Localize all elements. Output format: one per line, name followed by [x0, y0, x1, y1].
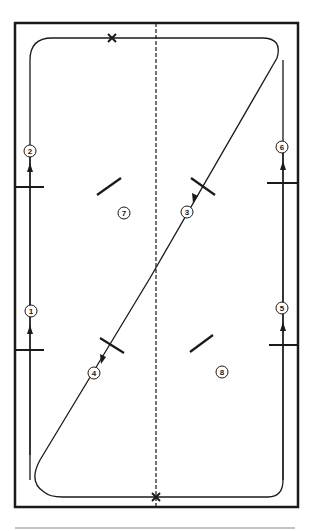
svg-text:7: 7 [122, 209, 127, 218]
svg-text:5: 5 [280, 304, 285, 313]
arrow-diagonal-3 [192, 193, 198, 203]
arrow-up-left-1 [27, 325, 33, 334]
svg-text:6: 6 [280, 143, 285, 152]
svg-text:4: 4 [92, 369, 97, 378]
arena-diagram: 2 1 6 5 7 3 4 8 [0, 0, 316, 531]
arrow-up-left-2 [27, 163, 33, 172]
marker-1: 1 [25, 305, 37, 317]
pole-field-7 [97, 178, 121, 195]
arrow-up-right-5 [280, 322, 286, 331]
marker-3: 3 [181, 206, 193, 218]
svg-text:1: 1 [29, 307, 34, 316]
arrow-up-right-6 [280, 161, 286, 170]
marker-6: 6 [276, 141, 288, 153]
marker-2: 2 [24, 145, 36, 157]
arrow-diagonal-4 [100, 354, 106, 364]
marker-7: 7 [118, 207, 130, 219]
marker-8: 8 [216, 366, 228, 378]
marker-4: 4 [88, 367, 100, 379]
svg-text:3: 3 [185, 208, 190, 217]
pole-field-8 [190, 335, 213, 352]
svg-text:8: 8 [220, 368, 225, 377]
svg-text:2: 2 [28, 147, 33, 156]
marker-5: 5 [276, 302, 288, 314]
pole-diagonal-upper [191, 178, 215, 195]
